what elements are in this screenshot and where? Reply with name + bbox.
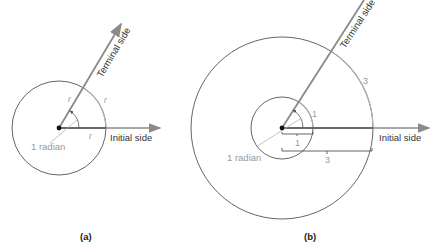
large-radius-bracket bbox=[282, 148, 372, 154]
small-radius-bracket bbox=[282, 132, 313, 136]
terminal-side-label-a: Terminal side bbox=[94, 25, 132, 79]
angle-pointer-a bbox=[50, 120, 77, 143]
arc-a bbox=[84, 89, 106, 129]
vertex-a bbox=[57, 126, 62, 131]
small-radius-label-b: 1 bbox=[295, 138, 300, 148]
small-arc-label-b: 1 bbox=[312, 109, 317, 119]
terminal-side-ray-a bbox=[59, 24, 121, 128]
angle-arc-a bbox=[70, 111, 79, 128]
terminal-side-label-b: Terminal side bbox=[337, 0, 377, 50]
initial-side-label-a: Initial side bbox=[110, 132, 152, 143]
angle-label-a: 1 radian bbox=[31, 141, 65, 152]
large-radius-label-b: 3 bbox=[325, 155, 330, 165]
angle-arc-b bbox=[293, 110, 303, 128]
angle-pointer-b bbox=[256, 119, 300, 147]
figure-a bbox=[12, 24, 160, 175]
terminal-side-ray-b bbox=[282, 0, 364, 128]
caption-b: (b) bbox=[304, 231, 316, 242]
radian-diagram: Terminal side Initial side 1 radian r r … bbox=[0, 0, 434, 249]
initial-side-label-b: Initial side bbox=[379, 132, 421, 143]
large-arc-label-b: 3 bbox=[363, 76, 368, 86]
figure-b bbox=[191, 0, 429, 219]
large-arc-b bbox=[331, 51, 373, 128]
vertex-b bbox=[280, 126, 285, 131]
small-arc-b bbox=[299, 102, 313, 128]
caption-a: (a) bbox=[80, 231, 92, 242]
radius-label-terminal-a: r bbox=[68, 94, 72, 104]
angle-label-b: 1 radian bbox=[227, 152, 261, 163]
arc-label-a: r bbox=[104, 95, 108, 105]
radius-label-initial-a: r bbox=[89, 131, 93, 141]
